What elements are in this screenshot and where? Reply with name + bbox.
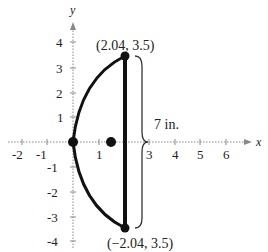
x-tick-label: -1 <box>36 147 47 162</box>
x-tick-label: -2 <box>12 147 23 162</box>
x-tick-label: 4 <box>172 147 179 162</box>
vertex-dot <box>68 137 78 147</box>
y-tick-label: -1 <box>47 160 58 175</box>
y-tick-label: -3 <box>47 210 58 225</box>
x-tick-label: 1 <box>96 147 103 162</box>
y-tick-label: 4 <box>56 35 63 50</box>
y-tick-label: -2 <box>47 185 58 200</box>
y-tick-label: 2 <box>56 86 63 101</box>
y-axis-label: y <box>69 3 76 17</box>
y-tick-label: 1 <box>57 110 64 125</box>
x-axis-label: x <box>255 135 262 149</box>
x-tick-label: 3 <box>146 147 153 162</box>
parabola-diagram: x y -2 -1 1 3 4 5 6 4 3 2 1 -1 -2 -3 -4 … <box>0 0 268 252</box>
y-tick-label: 3 <box>56 61 63 76</box>
x-axis <box>8 139 252 145</box>
top-point-label: (2.04, 3.5) <box>96 38 155 54</box>
x-tick-label: 5 <box>197 147 204 162</box>
y-axis-arrow-icon <box>70 22 76 30</box>
x-axis-arrow-icon <box>244 139 252 145</box>
focus-dot <box>106 137 116 147</box>
bottom-point-label: (−2.04, 3.5) <box>107 236 174 252</box>
dimension-label: 7 in. <box>154 117 179 132</box>
y-tick-label: -4 <box>47 234 58 249</box>
bottom-endpoint-dot <box>121 224 130 233</box>
x-tick-label: 6 <box>223 147 230 162</box>
